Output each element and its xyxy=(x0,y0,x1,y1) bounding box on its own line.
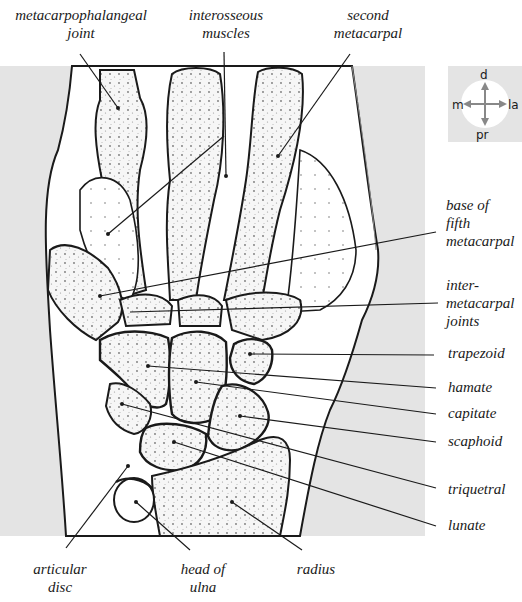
wrist-section-drawing xyxy=(0,0,522,602)
label-capitate: capitate xyxy=(448,404,496,422)
compass-proximal-label: pr xyxy=(476,126,489,144)
compass-medial-label: m xyxy=(452,96,464,114)
label-radius: radius xyxy=(280,560,352,578)
label-trapezoid: trapezoid xyxy=(448,344,505,362)
wrist-anatomy-figure: d pr m la metacarpophalangeal joint inte… xyxy=(0,0,522,602)
label-articular-disc: articular disc xyxy=(14,560,106,596)
label-intermetacarpal-joints: inter- metacarpal joints xyxy=(446,276,514,330)
label-metacarpophalangeal-joint: metacarpophalangeal joint xyxy=(6,6,156,42)
label-head-of-ulna: head of ulna xyxy=(166,560,240,596)
compass-lateral-label: la xyxy=(508,96,519,114)
lunate-bone xyxy=(140,424,206,471)
label-scaphoid: scaphoid xyxy=(448,432,502,450)
label-base-of-fifth-metacarpal: base of fifth metacarpal xyxy=(446,196,514,250)
label-triquetral: triquetral xyxy=(448,480,506,498)
compass-dorsal-label: d xyxy=(480,66,488,84)
label-interosseous-muscles: interosseous muscles xyxy=(180,6,272,42)
label-hamate: hamate xyxy=(448,378,492,396)
label-lunate: lunate xyxy=(448,516,486,534)
label-second-metacarpal: second metacarpal xyxy=(318,6,418,42)
